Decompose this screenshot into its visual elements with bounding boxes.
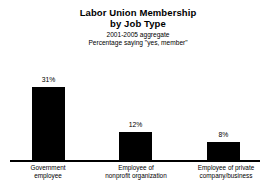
x-axis-line <box>10 160 260 162</box>
category-labels: Government employee Employee of nonprofi… <box>0 164 276 192</box>
bar-rect-2 <box>207 142 240 161</box>
category-label-1-line-1: Employee of <box>85 164 187 172</box>
category-label-1: Employee of nonprofit organization <box>85 164 187 179</box>
category-label-0-line-2: employee <box>8 172 88 180</box>
category-label-2-line-2: company/business <box>176 172 276 180</box>
bar-rect-1 <box>119 132 152 161</box>
bar-value-label-1: 12% <box>129 121 143 129</box>
category-label-0-line-1: Government <box>8 164 88 172</box>
category-label-1-line-2: nonprofit organization <box>85 172 187 180</box>
bar-chart: Labor Union Membership by Job Type 2001-… <box>0 0 276 192</box>
category-label-2: Employee of private company/business <box>176 164 276 179</box>
bar-private-company-employee: 8% <box>207 0 240 161</box>
bar-rect-0 <box>32 87 65 161</box>
bar-value-label-0: 31% <box>42 76 56 84</box>
bars-layer: 31% 12% 8% <box>0 0 276 161</box>
bar-nonprofit-employee: 12% <box>119 0 152 161</box>
category-label-0: Government employee <box>8 164 88 179</box>
category-label-2-line-1: Employee of private <box>176 164 276 172</box>
bar-value-label-2: 8% <box>219 131 229 139</box>
bar-government-employee: 31% <box>32 0 65 161</box>
